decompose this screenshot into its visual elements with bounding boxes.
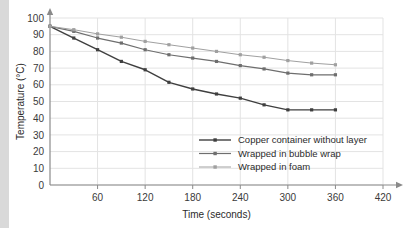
- x-axis-arrow-icon: [396, 182, 403, 188]
- x-tick-label: 360: [327, 192, 344, 203]
- y-tick-label: 70: [33, 63, 45, 74]
- data-point-marker: [72, 36, 75, 39]
- data-point-marker: [120, 36, 123, 39]
- grid-lines: [50, 18, 383, 185]
- data-point-marker: [191, 87, 194, 90]
- data-point-marker: [72, 28, 75, 31]
- data-point-marker: [215, 50, 218, 53]
- chart-container: 0102030405060708090100601201802403003604…: [0, 0, 408, 228]
- y-tick-label: 40: [33, 113, 45, 124]
- data-point-marker: [286, 72, 289, 75]
- data-point-marker: [310, 73, 313, 76]
- x-tick-label: 240: [232, 192, 249, 203]
- data-point-marker: [262, 67, 265, 70]
- data-point-marker: [144, 48, 147, 51]
- data-point-marker: [120, 41, 123, 44]
- data-point-marker: [167, 81, 170, 84]
- legend-label: Wrapped in bubble wrap: [238, 148, 341, 159]
- data-point-marker: [262, 56, 265, 59]
- data-point-marker: [144, 40, 147, 43]
- data-point-marker: [191, 46, 194, 49]
- y-axis-arrow-icon: [47, 8, 53, 15]
- y-tick-label: 90: [33, 29, 45, 40]
- data-point-marker: [144, 68, 147, 71]
- y-tick-label: 10: [33, 163, 45, 174]
- legend-swatch-marker: [213, 165, 216, 168]
- data-point-marker: [215, 60, 218, 63]
- cooling-curves-chart: 0102030405060708090100601201802403003604…: [0, 0, 408, 228]
- data-point-marker: [334, 73, 337, 76]
- data-point-marker: [286, 108, 289, 111]
- x-tick-label: 300: [280, 192, 297, 203]
- x-tick-label: 60: [92, 192, 104, 203]
- x-tick-label: 120: [137, 192, 154, 203]
- data-point-marker: [96, 48, 99, 51]
- data-point-marker: [215, 92, 218, 95]
- y-axis-tick-labels: 0102030405060708090100: [27, 13, 44, 191]
- data-point-marker: [262, 103, 265, 106]
- data-point-marker: [334, 63, 337, 66]
- data-point-marker: [334, 108, 337, 111]
- data-point-marker: [96, 36, 99, 39]
- data-point-marker: [239, 64, 242, 67]
- x-axis-tick-labels: 60120180240300360420: [92, 185, 392, 203]
- data-point-marker: [48, 25, 51, 28]
- data-point-marker: [167, 53, 170, 56]
- x-axis-title: Time (seconds): [182, 209, 251, 220]
- y-tick-label: 50: [33, 96, 45, 107]
- legend-label: Wrapped in foam: [238, 161, 310, 172]
- data-point-marker: [310, 108, 313, 111]
- y-tick-label: 100: [27, 13, 44, 24]
- y-tick-label: 30: [33, 130, 45, 141]
- x-tick-label: 420: [375, 192, 392, 203]
- data-point-marker: [191, 56, 194, 59]
- y-tick-label: 80: [33, 46, 45, 57]
- data-point-marker: [167, 43, 170, 46]
- y-tick-label: 60: [33, 79, 45, 90]
- data-point-marker: [286, 59, 289, 62]
- y-tick-label: 0: [38, 180, 44, 191]
- x-tick-label: 180: [184, 192, 201, 203]
- data-point-marker: [120, 60, 123, 63]
- y-tick-label: 20: [33, 146, 45, 157]
- legend-label: Copper container without layer: [238, 134, 367, 145]
- data-point-marker: [239, 97, 242, 100]
- y-axis-title: Temperature (°C): [15, 63, 26, 140]
- legend: Copper container without layerWrapped in…: [199, 134, 367, 172]
- data-point-marker: [310, 61, 313, 64]
- data-point-marker: [239, 53, 242, 56]
- data-point-marker: [96, 32, 99, 35]
- legend-swatch-marker: [213, 152, 216, 155]
- legend-swatch-marker: [213, 138, 216, 141]
